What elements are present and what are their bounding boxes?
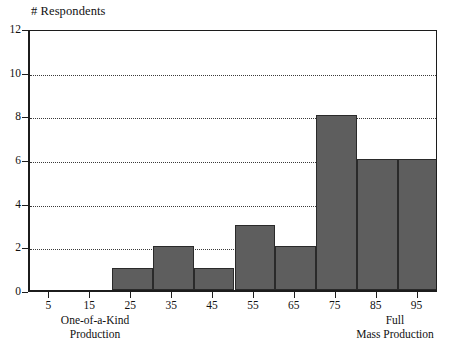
bar <box>153 246 194 290</box>
y-axis-tick <box>22 74 28 75</box>
x-axis-label: 75 <box>315 299 355 312</box>
x-axis-label: 95 <box>397 299 437 312</box>
bar <box>316 115 357 290</box>
x-axis-tick <box>417 292 418 298</box>
bar <box>275 246 316 290</box>
x-axis-label: 35 <box>151 299 191 312</box>
x-axis-tick <box>171 292 172 298</box>
bars-layer <box>30 31 436 290</box>
y-axis-title: # Respondents <box>31 4 106 18</box>
x-axis-label: 25 <box>110 299 150 312</box>
y-axis-label: 4 <box>0 199 21 211</box>
x-axis-tick <box>253 292 254 298</box>
x-axis-label: 65 <box>274 299 314 312</box>
y-axis-tick <box>22 292 28 293</box>
x-axis-tick <box>48 292 49 298</box>
caption-left-line2: Production <box>30 328 160 342</box>
caption-right: Full Mass Production <box>330 314 460 341</box>
caption-left: One-of-a-Kind Production <box>30 314 160 341</box>
caption-right-line2: Mass Production <box>330 328 460 342</box>
x-axis-label: 15 <box>69 299 109 312</box>
x-axis-label: 45 <box>192 299 232 312</box>
x-axis-tick <box>335 292 336 298</box>
bar <box>194 268 235 290</box>
bar <box>112 268 153 290</box>
caption-left-line1: One-of-a-Kind <box>61 314 129 326</box>
y-axis-label: 6 <box>0 155 21 167</box>
x-axis-label: 55 <box>233 299 273 312</box>
histogram-chart: # Respondents 121086420 5152535455565758… <box>0 0 464 347</box>
x-axis-tick <box>212 292 213 298</box>
y-axis-tick <box>22 248 28 249</box>
bar <box>357 159 398 290</box>
x-axis-tick <box>130 292 131 298</box>
y-axis-tick <box>22 117 28 118</box>
bar <box>235 225 276 291</box>
bar <box>398 159 437 290</box>
y-axis-tick <box>22 30 28 31</box>
y-axis-label: 8 <box>0 111 21 123</box>
y-axis-label: 2 <box>0 242 21 254</box>
y-axis-tick <box>22 161 28 162</box>
x-axis-label: 85 <box>356 299 396 312</box>
x-axis-tick <box>376 292 377 298</box>
y-axis-label: 0 <box>0 286 21 298</box>
caption-right-line1: Full <box>386 314 405 326</box>
y-axis-label: 10 <box>0 68 21 80</box>
y-axis-tick <box>22 205 28 206</box>
x-axis-tick <box>89 292 90 298</box>
y-axis-label: 12 <box>0 24 21 36</box>
x-axis-tick <box>294 292 295 298</box>
plot-area <box>28 30 437 292</box>
x-axis-label: 5 <box>28 299 68 312</box>
